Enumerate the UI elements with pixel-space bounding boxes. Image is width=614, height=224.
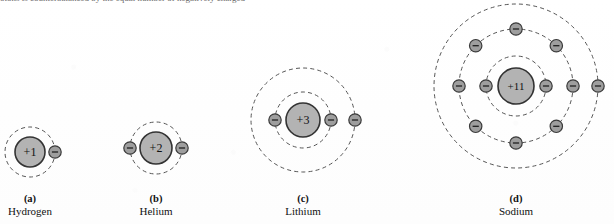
cropped-body-text-line: otons is counterbalanced by the equal nu… — [0, 0, 400, 2]
atom-caption-sodium: (d)Sodium — [446, 193, 586, 218]
cropped-body-text: otons is counterbalanced by the equal nu… — [0, 0, 400, 7]
caption-letter-helium: (b) — [86, 193, 226, 205]
caption-letter-hydrogen: (a) — [0, 193, 100, 205]
atom-diagram-hydrogen: +1 — [0, 113, 69, 191]
caption-element-name-sodium: Sodium — [446, 205, 586, 218]
caption-letter-sodium: (d) — [446, 193, 586, 205]
caption-letter-lithium: (c) — [233, 193, 373, 205]
caption-element-name-hydrogen: Hydrogen — [0, 205, 100, 218]
nucleus-charge-label-sodium: +11 — [508, 80, 525, 92]
nucleus-charge-label-helium: +2 — [150, 141, 163, 155]
atom-diagram-lithium: +3 — [237, 54, 369, 186]
atom-caption-hydrogen: (a)Hydrogen — [0, 193, 100, 218]
atom-caption-lithium: (c)Lithium — [233, 193, 373, 218]
atom-diagram-sodium: +11 — [420, 0, 612, 182]
caption-element-name-helium: Helium — [86, 205, 226, 218]
nucleus-charge-label-hydrogen: +1 — [24, 145, 37, 159]
atomic-structure-figure: otons is counterbalanced by the equal nu… — [0, 0, 614, 224]
nucleus-charge-label-lithium: +3 — [297, 113, 310, 127]
atom-diagram-helium: +2 — [116, 108, 196, 188]
caption-element-name-lithium: Lithium — [233, 205, 373, 218]
atom-caption-helium: (b)Helium — [86, 193, 226, 218]
